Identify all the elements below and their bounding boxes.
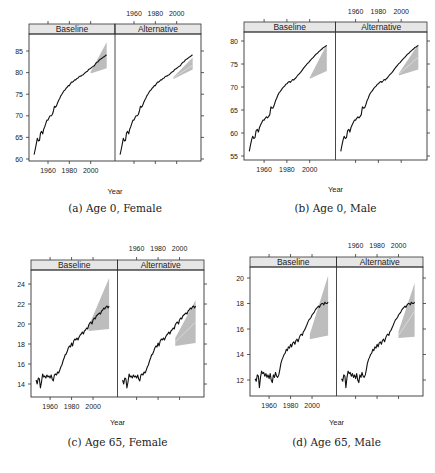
strip-label-alternative: Alternative xyxy=(141,260,181,270)
x-tick-label-bottom: 2000 xyxy=(83,167,99,174)
x-tick-label-top: 2000 xyxy=(172,245,188,252)
y-tick-label: 18 xyxy=(236,300,244,307)
observed-series-alternative xyxy=(123,306,196,388)
x-tick-label-bottom: 2000 xyxy=(85,403,101,410)
strip-label-alternative: Alternative xyxy=(138,24,178,34)
strip-label-alternative: Alternative xyxy=(360,257,400,267)
subfigure-c: BaselineAlternative141618202224196019601… xyxy=(17,245,207,448)
x-tick-label-top: 2000 xyxy=(393,8,409,15)
subfigure-a: BaselineAlternative606570758085196019601… xyxy=(15,10,204,214)
x-tick-label-top: 2000 xyxy=(169,10,185,17)
x-tick-label-bottom: 1980 xyxy=(283,402,299,409)
x-tick-label-top: 1960 xyxy=(348,242,364,249)
x-tick-label-bottom: 1960 xyxy=(256,166,272,173)
y-tick-label: 14 xyxy=(17,381,25,388)
y-tick-label: 80 xyxy=(230,38,238,45)
subfigure-caption: (a) Age 0, Female xyxy=(68,202,162,214)
x-axis-title: Year xyxy=(107,187,123,196)
x-tick-label-bottom: 2000 xyxy=(302,166,318,173)
forecast-median-alternative xyxy=(173,65,192,78)
x-tick-label-bottom: 1980 xyxy=(62,167,78,174)
y-tick-label: 85 xyxy=(15,48,23,55)
strip-label-baseline: Baseline xyxy=(273,22,306,32)
x-axis-title: Year xyxy=(110,418,126,427)
strip-label-baseline: Baseline xyxy=(58,260,91,270)
forecast-band-baseline xyxy=(91,42,107,73)
y-tick-label: 80 xyxy=(15,69,23,76)
strip-label-baseline: Baseline xyxy=(56,24,89,34)
subfigure-caption: (d) Age 65, Male xyxy=(292,436,381,448)
strip-label-alternative: Alternative xyxy=(361,22,401,32)
y-tick-label: 18 xyxy=(17,341,25,348)
x-axis-title: Year xyxy=(328,185,344,194)
y-tick-label: 65 xyxy=(230,107,238,114)
y-tick-label: 55 xyxy=(230,153,238,160)
y-tick-label: 75 xyxy=(230,61,238,68)
subfigure-caption: (b) Age 0, Male xyxy=(294,202,376,214)
strip-label-baseline: Baseline xyxy=(277,257,310,267)
y-tick-label: 60 xyxy=(230,130,238,137)
x-tick-label-bottom: 1980 xyxy=(279,166,295,173)
x-tick-label-top: 1980 xyxy=(371,8,387,15)
x-tick-label-top: 1960 xyxy=(129,245,145,252)
x-tick-label-top: 1960 xyxy=(348,8,364,15)
y-tick-label: 60 xyxy=(15,156,23,163)
y-tick-label: 12 xyxy=(236,377,244,384)
x-tick-label-top: 1960 xyxy=(126,10,142,17)
x-tick-label-top: 2000 xyxy=(391,242,407,249)
y-tick-label: 20 xyxy=(17,321,25,328)
x-tick-label-bottom: 2000 xyxy=(304,402,320,409)
observed-series-baseline xyxy=(249,46,326,152)
y-tick-label: 24 xyxy=(17,281,25,288)
y-tick-label: 22 xyxy=(17,301,25,308)
y-tick-label: 16 xyxy=(236,326,244,333)
x-tick-label-bottom: 1960 xyxy=(261,402,277,409)
x-tick-label-top: 1980 xyxy=(369,242,385,249)
y-tick-label: 70 xyxy=(15,112,23,119)
subfigure-d: BaselineAlternative121416182019601960198… xyxy=(236,242,426,448)
forecast-band-baseline xyxy=(310,44,327,79)
y-tick-label: 75 xyxy=(15,91,23,98)
x-axis-title: Year xyxy=(329,418,345,427)
y-tick-label: 16 xyxy=(17,361,25,368)
x-tick-label-bottom: 1960 xyxy=(42,403,58,410)
x-tick-label-bottom: 1980 xyxy=(64,403,80,410)
subfigure-caption: (c) Age 65, Female xyxy=(67,436,167,448)
observed-series-alternative xyxy=(341,46,419,152)
y-tick-label: 20 xyxy=(236,275,244,282)
x-tick-label-top: 1980 xyxy=(150,245,166,252)
y-tick-label: 65 xyxy=(15,134,23,141)
y-tick-label: 14 xyxy=(236,351,244,358)
subfigure-b: BaselineAlternative556065707580196019601… xyxy=(230,8,430,214)
figure: BaselineAlternative606570758085196019601… xyxy=(0,0,435,473)
x-tick-label-bottom: 1960 xyxy=(40,167,56,174)
y-tick-label: 70 xyxy=(230,84,238,91)
x-tick-label-top: 1980 xyxy=(148,10,164,17)
observed-series-alternative xyxy=(342,302,415,387)
